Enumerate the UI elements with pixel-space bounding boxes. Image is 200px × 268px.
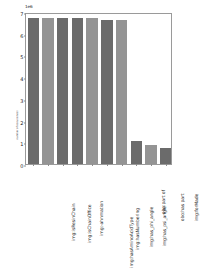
y-tick-mark bbox=[24, 100, 26, 101]
x-tick-mark bbox=[77, 164, 78, 166]
y-tick-mark bbox=[24, 144, 26, 145]
x-tick-mark bbox=[48, 164, 49, 166]
bar bbox=[72, 18, 83, 164]
x-tick-label: obo:has part bbox=[180, 194, 185, 222]
x-tick-label: obo:part of bbox=[162, 190, 167, 214]
x-tick-label: img:has_phi_angle bbox=[149, 207, 154, 248]
y-tick-label: 6 bbox=[20, 33, 23, 38]
bar bbox=[160, 148, 171, 164]
bar bbox=[145, 145, 156, 164]
y-tick-mark bbox=[24, 57, 26, 58]
x-tick-label: img:isChainOffice bbox=[88, 204, 93, 242]
y-tick-label: 7 bbox=[20, 12, 23, 17]
bar bbox=[28, 18, 39, 164]
y-tick-label: 5 bbox=[20, 55, 23, 60]
y-tick-label: 3 bbox=[20, 98, 23, 103]
plot-axes: 01234567 img:isResinChainimg:isChainOffi… bbox=[25, 13, 172, 165]
bar bbox=[131, 141, 142, 164]
x-tick-mark bbox=[92, 164, 93, 166]
y-tick-mark bbox=[24, 14, 26, 15]
x-tick-label: img:-ahnmation bbox=[99, 201, 104, 236]
bar bbox=[101, 20, 112, 164]
y-tick-mark bbox=[24, 79, 26, 80]
bar bbox=[42, 18, 53, 164]
x-tick-label: img:forMade bbox=[195, 194, 200, 222]
x-tick-mark bbox=[63, 164, 64, 166]
axis-offset-text: 1e6 bbox=[25, 4, 33, 10]
x-tick-mark bbox=[136, 164, 137, 166]
x-tick-mark bbox=[33, 164, 34, 166]
y-tick-label: 2 bbox=[20, 120, 23, 125]
y-tick-label: 1 bbox=[20, 142, 23, 147]
y-tick-label: 4 bbox=[20, 77, 23, 82]
y-tick-label: 0 bbox=[20, 164, 23, 169]
y-tick-mark bbox=[24, 166, 26, 167]
y-axis-label: number of occurrences bbox=[16, 111, 19, 140]
x-tick-mark bbox=[151, 164, 152, 166]
bar bbox=[57, 18, 68, 164]
x-tick-mark bbox=[122, 164, 123, 166]
bar bbox=[116, 20, 127, 164]
x-tick-mark bbox=[107, 164, 108, 166]
y-tick-mark bbox=[24, 122, 26, 123]
x-tick-label: img:hasNumbering bbox=[136, 208, 141, 250]
x-tick-mark bbox=[166, 164, 167, 166]
y-tick-mark bbox=[24, 35, 26, 36]
x-tick-label: img:isResinChain bbox=[73, 203, 78, 240]
bar bbox=[86, 18, 97, 164]
